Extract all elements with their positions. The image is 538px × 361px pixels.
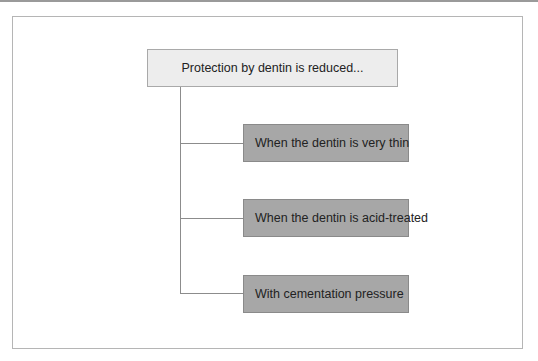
child-node-very-thin: When the dentin is very thin — [243, 124, 409, 162]
child-node-cementation-pressure: With cementation pressure — [243, 275, 409, 313]
branch-connector-1 — [180, 143, 243, 144]
child-node-acid-treated: When the dentin is acid-treated — [243, 199, 409, 237]
child-node-label: When the dentin is acid-treated — [255, 211, 428, 225]
root-node-label: Protection by dentin is reduced... — [181, 61, 363, 75]
child-node-label: With cementation pressure — [255, 287, 404, 301]
root-node: Protection by dentin is reduced... — [147, 49, 398, 87]
top-rule — [0, 0, 538, 2]
child-node-label: When the dentin is very thin — [255, 136, 409, 150]
branch-connector-2 — [180, 218, 243, 219]
branch-connector-3 — [180, 293, 243, 294]
tree-trunk-connector — [180, 87, 181, 294]
